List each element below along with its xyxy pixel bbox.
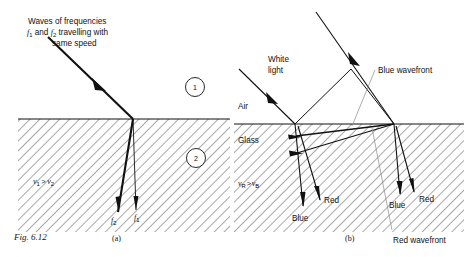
figure-6-12: Waves of frequencies f1 and f2 travellin… [0,0,468,257]
red-wavefront-label: Red wavefront [393,236,447,245]
v1-subscript: 1 [37,181,40,187]
caption-travelling-text: travelling with [56,28,108,37]
figure-caption: Fig. 6.12 [13,232,47,242]
blue-wavefront-label: Blue wavefront [378,66,433,75]
incident-ray-b-2-arrow [348,52,360,66]
medium-1-label: 1 [193,84,197,91]
blue-label-right: Blue [389,201,406,210]
glass-hatched-region [234,124,464,232]
incident-wavefront-upper [351,69,394,124]
panel-b-label: (b) [345,234,355,243]
glass-label: Glass [238,136,259,145]
red-label-right: Red [419,195,434,204]
blue-label-left: Blue [292,214,309,223]
gt-symbol-a: > [41,177,46,186]
incident-wavefront-lower [295,69,351,124]
f1-subscript: 1 [136,217,139,223]
v2-subscript: 2 [51,181,54,187]
caption-and-text: and [32,28,50,37]
medium-1-marker: 1 [186,78,205,97]
white-light-label-line1: White [268,55,289,64]
vr-subscript: R [242,183,246,189]
incident-ray-a [48,37,133,119]
medium-2-marker: 2 [187,149,206,168]
panel-b: White light Air Glass Blue wavefront Red… [234,12,464,245]
f2-subscript: 2 [113,220,116,226]
panel-a-caption-line3: same speed [52,39,97,48]
air-label: Air [238,102,248,111]
red-label-left: Red [324,196,339,205]
blue-wavefront-leader [352,70,375,126]
medium-2-label: 2 [194,155,198,162]
incident-ray-arrow-a [92,78,106,91]
figure-canvas: Waves of frequencies f1 and f2 travellin… [0,0,468,257]
panel-a-label: (a) [112,234,121,243]
vb-subscript: B [255,183,259,189]
white-light-label-line2: light [268,66,284,75]
panel-a-caption-line2: f1 and f2 travelling with [27,28,108,38]
panel-a-caption-line1: Waves of frequencies [28,17,106,26]
panel-a: Waves of frequencies f1 and f2 travellin… [13,17,230,243]
incident-ray-b-1-arrow [266,92,278,104]
